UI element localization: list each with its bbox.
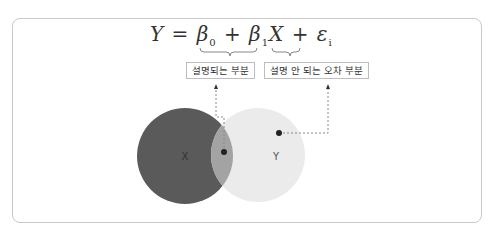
label-explained-part: 설명되는 부분: [186, 62, 255, 79]
label-x: X: [182, 151, 189, 162]
venn-diagram: X Y: [0, 0, 498, 234]
arrow-error: [326, 84, 330, 89]
arrow-explained: [214, 84, 218, 89]
brace-explained: [200, 48, 257, 56]
label-unexplained-error: 설명 안 되는 오차 부분: [264, 62, 369, 79]
label-y: Y: [272, 151, 280, 162]
dot-explained: [221, 149, 227, 155]
dot-error: [276, 130, 282, 136]
brace-error: [272, 48, 300, 56]
